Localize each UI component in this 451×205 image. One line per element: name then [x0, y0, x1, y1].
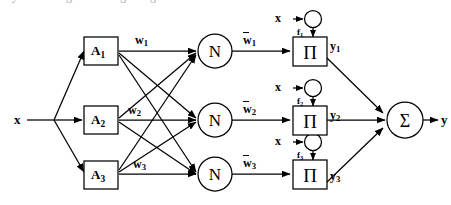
label-a1: A1 [91, 44, 105, 60]
circle-f2 [305, 80, 322, 97]
label-y2: y2 [330, 109, 340, 123]
label-n1: N [209, 42, 221, 61]
edge-input-to-a3 [54, 120, 84, 172]
feedback-input-label-1: x [275, 12, 281, 24]
feedback-input-label-2: x [275, 81, 281, 93]
output-label-y: y [441, 113, 448, 126]
input-label-x: x [14, 113, 21, 126]
label-pi2: Π [303, 111, 317, 132]
label-f1: f1 [297, 28, 303, 38]
label-w1: w1 [135, 34, 148, 48]
label-f3: f3 [297, 151, 303, 161]
label-w2: w2 [128, 104, 141, 118]
feedback-input-label-3: x [275, 135, 281, 147]
label-y1: y1 [330, 40, 340, 54]
label-wbar2: w2 [243, 103, 256, 117]
label-pi3: Π [303, 165, 317, 186]
circle-f1 [305, 11, 322, 28]
label-a3: A3 [91, 168, 105, 184]
edge-pi1-sigma [327, 58, 383, 113]
label-wbar1: w1 [243, 34, 256, 48]
label-a2: A2 [91, 113, 105, 129]
label-n2: N [209, 111, 221, 130]
edge-input-to-a1 [54, 51, 84, 120]
label-w3: w3 [133, 158, 146, 172]
label-f2: f2 [297, 97, 303, 107]
diagram-canvas: N N N Π Π Π Σ [0, 0, 451, 205]
label-pi1: Π [303, 42, 317, 63]
label-wbar3: w3 [243, 157, 256, 171]
label-n3: N [209, 165, 221, 184]
label-y3: y3 [330, 170, 340, 184]
neural-network-diagram: y g g g [0, 0, 451, 205]
circle-f3 [305, 134, 322, 151]
label-sigma: Σ [400, 111, 410, 131]
